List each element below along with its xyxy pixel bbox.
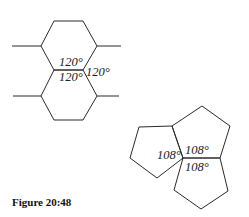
hexagon-angle-label: 120° (86, 65, 110, 79)
hexagon-angle-label: 120° (59, 55, 83, 69)
figure-caption: Figure 20:48 (12, 196, 71, 208)
hexagon-angle-label: 120° (59, 70, 83, 84)
pentagon-angle-label: 108° (185, 143, 209, 157)
hexagon-group: 120° 120° 120° (12, 21, 121, 120)
pentagon-group: 108° 108° 108° (130, 106, 230, 209)
pentagon-angle-label: 108° (185, 160, 209, 174)
tessellation-diagram: 120° 120° 120° 108° 108° 108° (0, 0, 249, 217)
pentagon-angle-label: 108° (157, 148, 181, 162)
